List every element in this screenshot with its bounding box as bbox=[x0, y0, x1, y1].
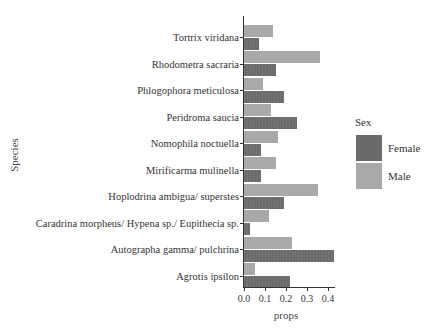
bar-male bbox=[244, 25, 273, 37]
bar-female bbox=[244, 91, 284, 103]
x-tick bbox=[244, 288, 245, 291]
category-label: Rhodometra sacraria bbox=[152, 58, 239, 69]
bar-male bbox=[244, 210, 269, 222]
x-tick-label: 0.4 bbox=[322, 293, 335, 304]
category-label: Mirificarma mulinella bbox=[146, 164, 239, 175]
bar-chart: Species Tortrix viridanaRhodometra sacra… bbox=[0, 0, 439, 336]
bar-male bbox=[244, 51, 320, 63]
bar-female bbox=[244, 223, 250, 235]
category-label: Agrotis ipsilon bbox=[176, 270, 239, 281]
x-tick-label: 0.2 bbox=[280, 293, 293, 304]
legend-label-male: Male bbox=[388, 170, 411, 182]
bar-female bbox=[244, 144, 261, 156]
category-label: Nomophila noctuella bbox=[151, 138, 239, 149]
legend-swatch-female bbox=[356, 135, 382, 161]
x-tick bbox=[307, 288, 308, 291]
bar-female bbox=[244, 250, 334, 262]
bar-female bbox=[244, 197, 284, 209]
category-label: Peridroma saucia bbox=[166, 111, 239, 122]
x-tick bbox=[286, 288, 287, 291]
bar-male bbox=[244, 131, 278, 143]
x-tick bbox=[265, 288, 266, 291]
x-tick-label: 0.1 bbox=[259, 293, 272, 304]
bar-female bbox=[244, 170, 261, 182]
x-tick bbox=[328, 288, 329, 291]
bar-male bbox=[244, 157, 276, 169]
bar-female bbox=[244, 38, 259, 50]
bar-male bbox=[244, 263, 255, 275]
category-label: Autographa gamma/ pulchrina bbox=[111, 244, 239, 255]
x-axis-line bbox=[243, 287, 335, 288]
legend-swatch-male bbox=[356, 163, 382, 189]
bar-male bbox=[244, 237, 292, 249]
bar-female bbox=[244, 117, 297, 129]
category-label: Hoplodrina ambigua/ superstes bbox=[108, 191, 239, 202]
x-tick-label: 0.3 bbox=[301, 293, 314, 304]
legend-label-female: Female bbox=[388, 142, 420, 154]
category-label: Caradrina morpheus/ Hypena sp./ Eupithec… bbox=[36, 217, 239, 228]
legend-title: Sex bbox=[355, 116, 372, 128]
category-label: Phlogophora meticulosa bbox=[137, 85, 239, 96]
category-label: Tortrix viridana bbox=[173, 32, 239, 43]
bar-male bbox=[244, 104, 271, 116]
bar-male bbox=[244, 78, 263, 90]
y-axis-label: Species bbox=[8, 138, 20, 172]
x-tick-label: 0.0 bbox=[238, 293, 251, 304]
bar-male bbox=[244, 184, 318, 196]
x-axis-label: props bbox=[274, 309, 298, 321]
bar-female bbox=[244, 64, 276, 76]
